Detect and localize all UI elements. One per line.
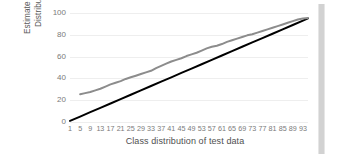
x-tick-label: 41 — [167, 124, 175, 133]
x-tick-label: 17 — [107, 124, 115, 133]
x-tick-label: 65 — [228, 124, 236, 133]
y-axis-title-line-1: Estimate Class — [22, 0, 33, 34]
x-tick-label: 61 — [218, 124, 226, 133]
x-tick-label: 37 — [157, 124, 165, 133]
x-tick-label: 45 — [177, 124, 185, 133]
x-tick-label: 93 — [299, 124, 307, 133]
y-tick-label: 40 — [40, 74, 66, 82]
y-tick-label: 100 — [40, 9, 66, 17]
chart-figure: Estimate Class Distribution 020406080100… — [0, 0, 337, 159]
x-tick-label: 49 — [188, 124, 196, 133]
x-tick-label: 81 — [269, 124, 277, 133]
y-tick-label: 80 — [40, 31, 66, 39]
x-tick-label: 13 — [96, 124, 104, 133]
y-tick-label: 20 — [40, 96, 66, 104]
series-line-ideal — [70, 18, 308, 120]
scrollbar-vertical[interactable] — [318, 4, 325, 154]
x-tick-label: 33 — [147, 124, 155, 133]
y-tick-label: 0 — [40, 118, 66, 126]
x-axis-title: Class distribution of test data — [60, 136, 310, 146]
x-tick-label: 89 — [289, 124, 297, 133]
x-tick-label: 77 — [258, 124, 266, 133]
x-tick-label: 85 — [279, 124, 287, 133]
x-tick-label: 1 — [68, 124, 72, 133]
series-container — [70, 13, 308, 122]
x-tick-label: 57 — [208, 124, 216, 133]
x-tick-label: 69 — [238, 124, 246, 133]
plot-area — [70, 13, 308, 122]
x-tick-label: 53 — [198, 124, 206, 133]
x-tick-label: 21 — [117, 124, 125, 133]
y-tick-label: 60 — [40, 53, 66, 61]
x-tick-label: 9 — [88, 124, 92, 133]
x-tick-label: 5 — [78, 124, 82, 133]
x-tick-label: 25 — [127, 124, 135, 133]
x-axis-tick-labels: 1591317212529333741454953576165697377818… — [70, 124, 308, 135]
series-line-estimate — [80, 18, 308, 94]
x-tick-label: 73 — [248, 124, 256, 133]
x-tick-label: 29 — [137, 124, 145, 133]
gridline — [70, 122, 308, 123]
